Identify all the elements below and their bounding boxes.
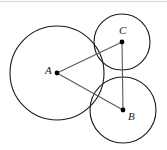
point-a xyxy=(55,71,60,76)
vertex-label-c: C xyxy=(119,25,126,36)
vertex-label-a: A xyxy=(45,65,52,76)
point-c xyxy=(120,40,125,45)
vertex-label-b: B xyxy=(128,111,135,122)
segment-cb xyxy=(122,42,123,110)
point-b xyxy=(121,108,126,113)
geometry-figure: A C B xyxy=(0,0,167,150)
geometry-canvas xyxy=(0,0,167,150)
